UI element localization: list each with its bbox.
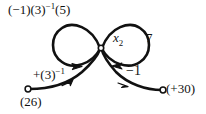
figure-canvas: (−1)(3)−1(5) x2 7 +(3)−1 −1 (26) (+30) — [0, 0, 206, 114]
left-branch-gain-prefix: +(3) — [33, 67, 56, 82]
source-left-node-label: (26) — [20, 95, 42, 108]
center-node-label: x2 — [113, 31, 123, 44]
right-branch-gain-label: −1 — [126, 64, 141, 78]
left-loop-gain-exponent: −1 — [46, 1, 55, 11]
left-branch-gain-label: +(3)−1 — [33, 68, 65, 81]
right-input-edge-arrowhead — [118, 83, 128, 87]
left-loop-gain-suffix: (5) — [55, 2, 70, 17]
right-self-loop-path — [102, 25, 149, 66]
left-loop-gain-label: (−1)(3)−1(5) — [8, 3, 70, 16]
source-right-node-label: (+30) — [166, 82, 195, 95]
center-node — [98, 45, 103, 50]
source-left-node — [25, 86, 31, 92]
left-self-loop-edge — [53, 25, 100, 70]
right-loop-gain-label: 7 — [146, 31, 153, 44]
left-loop-gain-prefix: (−1)(3) — [8, 2, 46, 17]
left-branch-gain-exponent: −1 — [56, 66, 65, 76]
center-node-subscript: 2 — [119, 38, 123, 48]
